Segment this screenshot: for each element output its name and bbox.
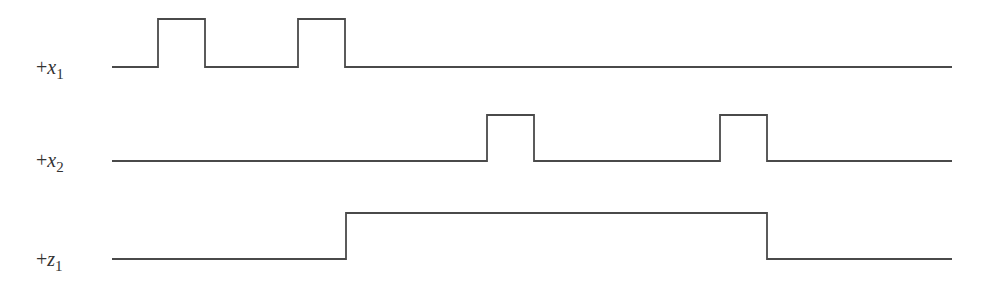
waveform-x1 [112, 19, 952, 67]
timing-diagram: +x1 +x2 +z1 [0, 0, 982, 283]
signal-label-x2: +x2 [36, 149, 64, 175]
signal-x2: +x2 [36, 115, 952, 175]
signal-z1: +z1 [36, 213, 952, 274]
signal-x1: +x1 [36, 19, 952, 82]
waveform-x2 [112, 115, 952, 161]
signal-label-x1: +x1 [36, 56, 64, 82]
signal-label-z1: +z1 [36, 248, 63, 274]
waveform-z1 [112, 213, 952, 259]
